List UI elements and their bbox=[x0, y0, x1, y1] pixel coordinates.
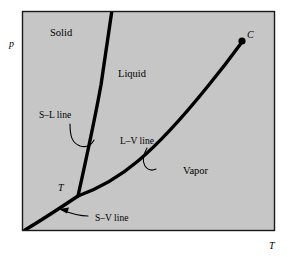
region-label-liquid: Liquid bbox=[118, 68, 147, 79]
curve-label-sv: S–V line bbox=[95, 213, 128, 223]
curve-label-lv: L–V line bbox=[120, 136, 154, 146]
phase-diagram-figure: p T Solid Liquid Vapor S–L line L–V line… bbox=[0, 0, 288, 257]
x-axis-label: T bbox=[269, 240, 276, 251]
curve-label-sl: S–L line bbox=[39, 110, 71, 120]
plot-frame bbox=[23, 12, 275, 231]
region-label-solid: Solid bbox=[50, 27, 73, 38]
y-axis-label: p bbox=[8, 38, 14, 49]
region-label-vapor: Vapor bbox=[183, 165, 209, 176]
critical-point-dot bbox=[238, 37, 245, 44]
critical-point-label: C bbox=[247, 29, 254, 40]
